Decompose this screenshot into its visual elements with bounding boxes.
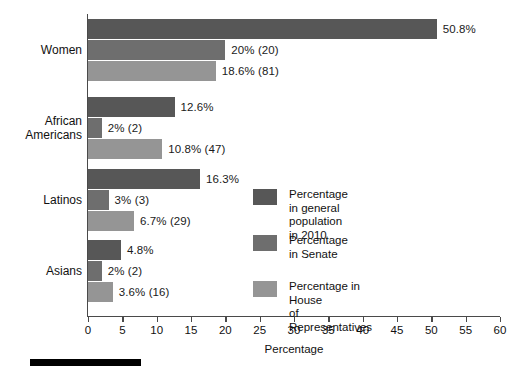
bar-row: 12.6%: [88, 97, 500, 117]
bar-value-label: 3.6% (16): [119, 286, 170, 298]
x-axis-tick-label: 0: [85, 324, 91, 336]
x-axis-tick-label: 10: [150, 324, 163, 336]
bar-row: 18.6% (81): [88, 61, 500, 81]
x-axis-tick: [157, 317, 158, 322]
legend-item-house: Percentage in House of Representatives: [253, 280, 372, 334]
x-axis-tick: [466, 317, 467, 322]
x-axis-tick-label: 60: [494, 324, 507, 336]
x-axis-tick: [225, 317, 226, 322]
legend-item-senate: Percentage in Senate: [253, 234, 348, 261]
bar: [88, 19, 437, 39]
x-axis-tick-label: 50: [425, 324, 438, 336]
category-label-women: Women: [0, 43, 82, 57]
legend-swatch-house: [253, 281, 277, 297]
bar-value-label: 2% (2): [108, 265, 142, 277]
bar-value-label: 6.7% (29): [140, 215, 191, 227]
bar-row: 2% (2): [88, 261, 500, 281]
bar: [88, 118, 102, 138]
x-axis-tick: [500, 317, 501, 322]
bar-row: 50.8%: [88, 19, 500, 39]
bar-value-label: 12.6%: [181, 101, 214, 113]
bar: [88, 139, 162, 159]
bar: [88, 190, 109, 210]
bar-row: 2% (2): [88, 118, 500, 138]
chart-figure: 50.8%20% (20)18.6% (81)12.6%2% (2)10.8% …: [0, 0, 529, 374]
x-axis-tick-label: 55: [459, 324, 472, 336]
bar-value-label: 16.3%: [206, 173, 239, 185]
bar: [88, 61, 216, 81]
bar: [88, 240, 121, 260]
x-axis-tick: [397, 317, 398, 322]
bar-value-label: 50.8%: [443, 23, 476, 35]
x-axis-tick-label: 20: [219, 324, 232, 336]
bar: [88, 211, 134, 231]
x-axis-tick: [191, 317, 192, 322]
legend-swatch-general-population: [253, 189, 277, 205]
x-axis-tick-label: 15: [185, 324, 198, 336]
legend-swatch-senate: [253, 235, 277, 251]
plot-area: 50.8%20% (20)18.6% (81)12.6%2% (2)10.8% …: [88, 14, 500, 317]
category-label-latinos: Latinos: [0, 193, 82, 207]
bar-value-label: 4.8%: [127, 244, 154, 256]
bar-value-label: 3% (3): [115, 194, 149, 206]
x-axis-title: Percentage: [88, 343, 500, 355]
x-axis-tick: [431, 317, 432, 322]
bar: [88, 261, 102, 281]
bar: [88, 169, 200, 189]
bar-row: 20% (20): [88, 40, 500, 60]
bar: [88, 40, 225, 60]
bottom-rule: [30, 359, 141, 366]
category-label-african-americans: African Americans: [0, 114, 82, 142]
bar-value-label: 10.8% (47): [168, 143, 225, 155]
legend-label-senate: Percentage in Senate: [289, 234, 348, 261]
bar-value-label: 20% (20): [231, 44, 278, 56]
x-axis-tick: [88, 317, 89, 322]
legend-label-house: Percentage in House of Representatives: [289, 280, 372, 334]
bar-value-label: 18.6% (81): [222, 65, 279, 77]
x-axis-tick-label: 45: [391, 324, 404, 336]
bar: [88, 97, 175, 117]
bar-row: 16.3%: [88, 169, 500, 189]
x-axis-tick-label: 5: [119, 324, 125, 336]
bar-value-label: 2% (2): [108, 122, 142, 134]
x-axis-tick: [122, 317, 123, 322]
bar: [88, 282, 113, 302]
bar-row: 10.8% (47): [88, 139, 500, 159]
category-label-asians: Asians: [0, 264, 82, 278]
